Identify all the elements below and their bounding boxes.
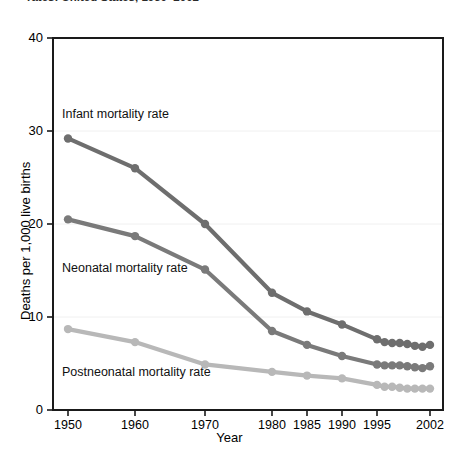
- y-axis-tick-label: 30: [13, 124, 43, 137]
- x-axis-title: Year: [0, 430, 459, 445]
- y-axis-title: Deaths per 1,000 live births: [18, 162, 33, 320]
- series-label-infant: Infant mortality rate: [62, 108, 169, 121]
- series-label-neonatal: Neonatal mortality rate: [62, 262, 188, 275]
- y-axis-tick-label: 0: [13, 403, 43, 416]
- chart-figure: rates: United States, 1950–2002 40302010…: [0, 0, 459, 460]
- axes-frame: [53, 38, 443, 410]
- series-label-postneonatal: Postneonatal mortality rate: [62, 366, 211, 379]
- y-axis-tick-label: 40: [13, 31, 43, 44]
- plot-area: [0, 0, 459, 460]
